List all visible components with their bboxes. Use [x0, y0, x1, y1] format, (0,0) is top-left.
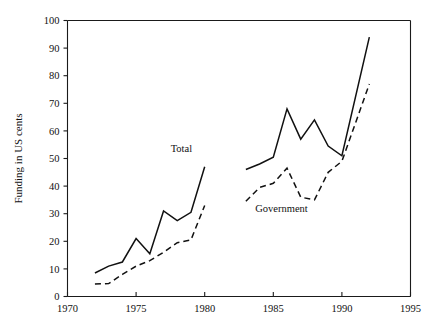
chart-frame [68, 21, 411, 297]
x-tick-label: 1990 [331, 303, 352, 314]
y-axis-title-group: Funding in US cents [12, 113, 24, 203]
y-tick-label: 60 [49, 126, 60, 137]
y-tick-label: 30 [49, 208, 60, 219]
chart-page: 0102030405060708090100 19701975198019851… [0, 0, 440, 335]
y-axis-title: Funding in US cents [12, 113, 24, 203]
series-label-government: Government [255, 203, 308, 214]
series-line-government [246, 84, 369, 201]
x-tick-label: 1995 [400, 303, 421, 314]
series-label-total: Total [171, 143, 193, 154]
x-tick-label: 1975 [126, 303, 147, 314]
funding-line-chart: 0102030405060708090100 19701975198019851… [0, 0, 440, 335]
x-tick-label: 1985 [263, 303, 284, 314]
plot-series [95, 37, 369, 284]
y-tick-label: 50 [49, 153, 60, 164]
series-line-total [95, 167, 205, 273]
y-tick-label: 10 [49, 264, 60, 275]
y-tick-label: 70 [49, 98, 60, 109]
series-annotations: TotalGovernment [171, 143, 308, 215]
y-tick-label: 40 [49, 181, 60, 192]
x-tick-label: 1970 [57, 303, 78, 314]
series-line-government [95, 205, 205, 284]
y-tick-label: 90 [49, 43, 60, 54]
x-tick-label: 1980 [194, 303, 215, 314]
y-tick-label: 0 [54, 291, 59, 302]
y-tick-label: 80 [49, 70, 60, 81]
series-line-total [246, 37, 369, 169]
y-tick-label: 20 [49, 236, 60, 247]
x-axis-ticks: 197019751980198519901995 [57, 292, 421, 314]
y-tick-label: 100 [44, 15, 60, 26]
y-axis-ticks: 0102030405060708090100 [44, 15, 68, 302]
